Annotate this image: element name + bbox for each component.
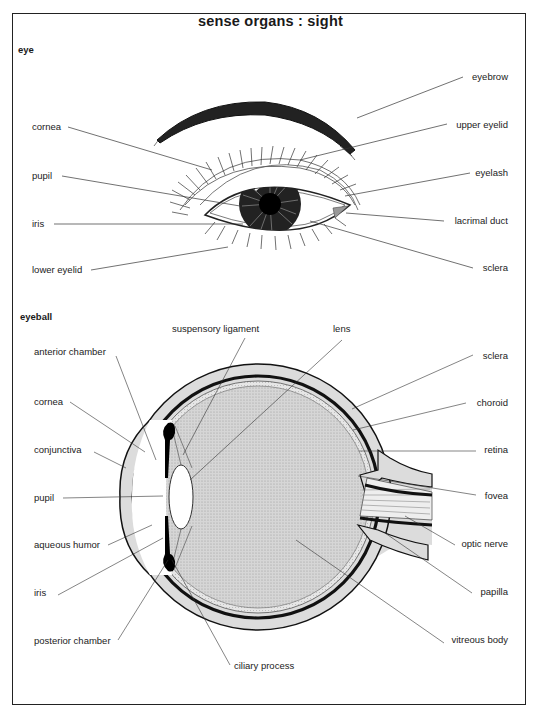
eyeball-drawing	[120, 364, 432, 643]
label-pupil-eyeball: pupil	[34, 492, 54, 503]
diagram-drawings	[0, 0, 541, 720]
label-choroid: choroid	[477, 397, 508, 408]
label-posterior-chamber: posterior chamber	[34, 635, 111, 646]
label-lower-eyelid: lower eyelid	[32, 264, 82, 275]
label-cornea: cornea	[32, 121, 61, 132]
label-suspensory-ligament: suspensory ligament	[172, 323, 259, 334]
label-anterior-chamber: anterior chamber	[34, 346, 106, 357]
eyebrow-drawing	[154, 102, 355, 160]
label-iris-eyeball: iris	[34, 587, 46, 598]
label-pupil: pupil	[32, 170, 52, 181]
label-eyebrow: eyebrow	[472, 71, 508, 82]
label-eyelash: eyelash	[475, 167, 508, 178]
label-lacrimal-duct: lacrimal duct	[455, 215, 508, 226]
label-papilla: papilla	[481, 586, 508, 597]
label-conjunctiva: conjunctiva	[34, 444, 82, 455]
label-vitreous-body: vitreous body	[451, 634, 508, 645]
lacrimal-duct-shape	[333, 206, 348, 218]
label-iris: iris	[32, 218, 44, 229]
label-lens: lens	[333, 323, 350, 334]
label-sclera-eye: sclera	[483, 262, 508, 273]
section-heading-eyeball: eyeball	[20, 311, 52, 322]
label-upper-eyelid: upper eyelid	[456, 119, 508, 130]
label-retina: retina	[484, 444, 508, 455]
iris-drawing	[239, 173, 301, 235]
label-ciliary-process: ciliary process	[234, 660, 294, 671]
label-sclera-eyeball: sclera	[483, 350, 508, 361]
label-optic-nerve: optic nerve	[462, 538, 508, 549]
label-aqueous-humor: aqueous humor	[34, 539, 100, 550]
label-fovea: fovea	[485, 490, 508, 501]
label-cornea-eyeball: cornea	[34, 396, 63, 407]
